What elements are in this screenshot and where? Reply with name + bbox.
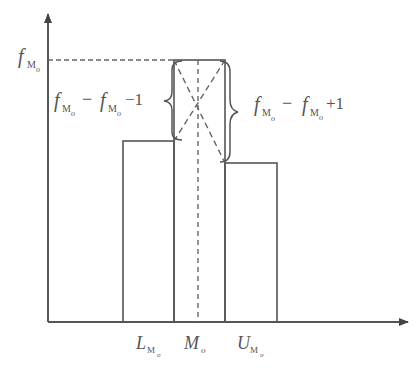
- modal-bar: [174, 60, 225, 322]
- svg-text:o: o: [271, 114, 275, 123]
- svg-text:M: M: [62, 103, 71, 114]
- svg-text:L: L: [135, 333, 146, 353]
- svg-text:o: o: [319, 113, 323, 122]
- svg-text:o: o: [117, 109, 121, 118]
- svg-text:U: U: [237, 333, 251, 353]
- svg-text:o: o: [260, 351, 264, 359]
- svg-text:o: o: [71, 109, 75, 118]
- svg-text:o: o: [157, 351, 161, 359]
- svg-text:M: M: [250, 345, 258, 355]
- y-axis-label: f M o: [18, 45, 40, 74]
- left-brace-label: f M o − f M o −1: [54, 89, 143, 118]
- svg-text:M: M: [108, 103, 117, 114]
- svg-text:o: o: [201, 345, 206, 355]
- svg-text:f: f: [302, 93, 310, 116]
- svg-text:−: −: [282, 93, 292, 113]
- pre-modal-bar: [123, 141, 174, 322]
- x-label-lower-boundary: L M o: [135, 333, 161, 359]
- right-brace: [220, 61, 238, 162]
- svg-text:M: M: [27, 59, 36, 70]
- svg-text:o: o: [36, 65, 40, 74]
- svg-text:f: f: [254, 93, 262, 116]
- x-label-upper-boundary: U M o: [237, 333, 264, 359]
- right-brace-label: f M o − f M o +1: [254, 93, 344, 123]
- post-modal-bar: [225, 163, 277, 322]
- svg-text:f: f: [54, 89, 62, 112]
- left-brace: [164, 61, 182, 140]
- svg-text:+1: +1: [326, 94, 344, 113]
- svg-text:M: M: [262, 107, 271, 118]
- svg-text:−1: −1: [125, 90, 143, 109]
- diagonal-left: [174, 60, 225, 163]
- diagonal-right: [174, 60, 225, 141]
- svg-text:−: −: [82, 89, 92, 109]
- svg-text:M: M: [147, 345, 155, 355]
- mode-histogram-diagram: f M o f M o − f M o −1 f M o − f M o +1 …: [0, 0, 420, 371]
- svg-text:M: M: [183, 333, 200, 353]
- x-label-mode: M o: [183, 333, 206, 355]
- svg-text:M: M: [310, 107, 319, 118]
- svg-text:f: f: [18, 45, 26, 68]
- svg-text:f: f: [100, 89, 108, 112]
